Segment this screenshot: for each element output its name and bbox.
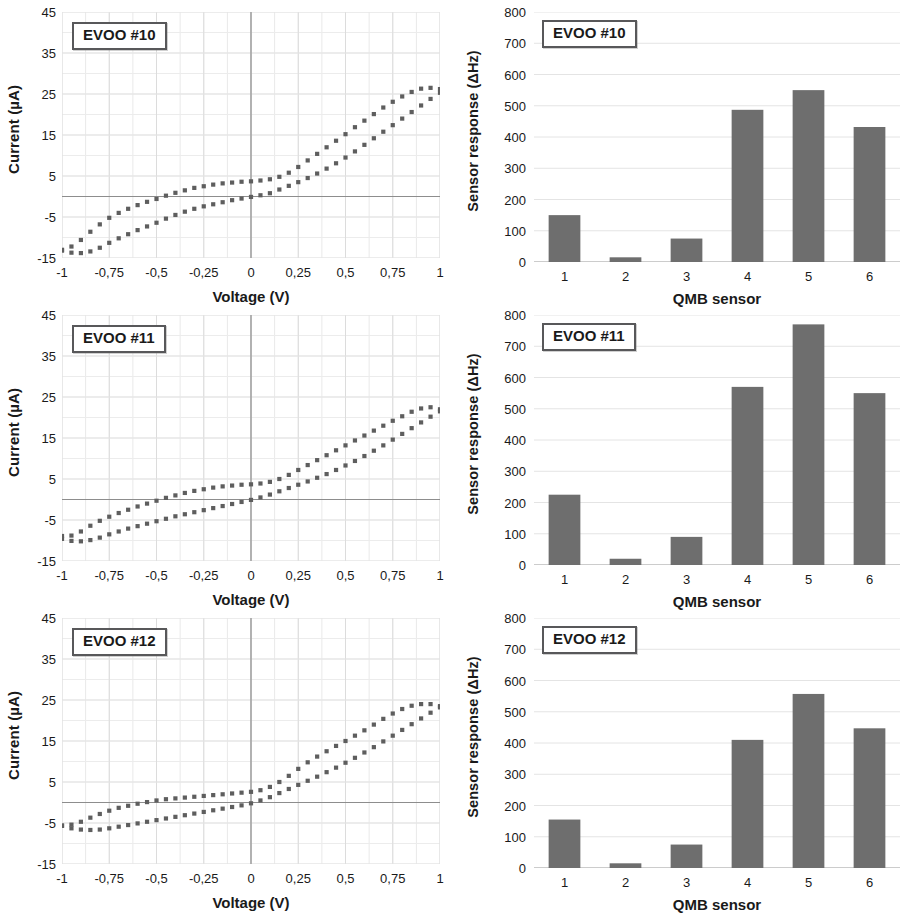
- bar-x-tick-label: 3: [683, 876, 690, 889]
- cv-y-tick-label: 5: [49, 170, 56, 183]
- cv-sample-label: EVOO #12: [72, 628, 167, 656]
- cv-x-tick-label: 0: [247, 569, 254, 582]
- cv-x-tick-label: 1: [436, 872, 443, 885]
- panel-row-2: Current (µA)-15-5515253545-1-0,75-0,5-0,…: [0, 303, 908, 606]
- bar-y-tick-label: 400: [504, 737, 526, 750]
- bar-plot-area: [534, 12, 900, 262]
- bar-x-tick-label: 6: [866, 573, 873, 586]
- bar-y-tick-label: 700: [504, 37, 526, 50]
- cv-x-tick-label: 0: [247, 872, 254, 885]
- bar-plot-area: [534, 315, 900, 565]
- cv-sample-label: EVOO #11: [72, 325, 166, 353]
- cv-y-tick-label: 15: [42, 432, 56, 445]
- bar-plot-area: [534, 618, 900, 868]
- cv-x-tick-label: 1: [436, 266, 443, 279]
- bar-y-axis-title-text: Sensor response (ΔHz): [465, 50, 481, 212]
- bar-2: [610, 257, 642, 262]
- bar-y-tick-label: 800: [504, 6, 526, 19]
- bar-5: [793, 324, 825, 565]
- bar-x-tick-label: 1: [561, 573, 568, 586]
- cv-panel-2: Current (µA)-15-5515253545-1-0,75-0,5-0,…: [0, 303, 460, 606]
- cv-x-tick-label: 0,75: [380, 872, 405, 885]
- bar-y-ticks: 0100200300400500600700800: [492, 303, 526, 565]
- cv-y-tick-label: 45: [42, 6, 56, 19]
- bar-x-tick-label: 2: [622, 573, 629, 586]
- bar-x-ticks: 123456: [534, 876, 900, 894]
- bar-x-tick-label: 4: [744, 270, 751, 283]
- cv-y-tick-label: 25: [42, 391, 56, 404]
- bar-y-tick-label: 700: [504, 643, 526, 656]
- cv-y-ticks: -15-5515253545: [22, 303, 56, 561]
- bar-4: [732, 110, 764, 262]
- cv-x-tick-label: -0,5: [145, 266, 167, 279]
- cv-x-ticks: -1-0,75-0,5-0,2500,250,50,751: [62, 872, 440, 890]
- bar-x-tick-label: 5: [805, 573, 812, 586]
- cv-y-tick-label: 45: [42, 309, 56, 322]
- bar-sample-label: EVOO #11: [542, 323, 636, 351]
- bar-y-tick-label: 300: [504, 465, 526, 478]
- bar-x-tick-label: 5: [805, 270, 812, 283]
- bar-6: [854, 393, 886, 565]
- cv-x-tick-label: 0,5: [336, 872, 354, 885]
- cv-y-tick-label: 35: [42, 350, 56, 363]
- cv-y-tick-label: -5: [44, 817, 56, 830]
- bar-y-tick-label: 800: [504, 612, 526, 625]
- bar-y-tick-label: 400: [504, 131, 526, 144]
- bar-panel-3: Sensor response (ΔHz)0100200300400500600…: [460, 606, 908, 923]
- bar-1: [549, 215, 581, 262]
- bar-x-axis-title: QMB sensor: [534, 896, 900, 913]
- bar-y-tick-label: 300: [504, 162, 526, 175]
- cv-x-tick-label: 0,25: [286, 872, 311, 885]
- bar-x-tick-label: 5: [805, 876, 812, 889]
- cv-x-tick-label: -0,25: [189, 266, 219, 279]
- bar-1: [549, 820, 581, 868]
- cv-y-ticks: -15-5515253545: [22, 0, 56, 258]
- cv-x-axis-title: Voltage (V): [62, 894, 440, 911]
- bar-3: [671, 239, 703, 262]
- figure-root: Current (µA)-15-5515253545-1-0,75-0,5-0,…: [0, 0, 908, 923]
- bar-y-tick-label: 100: [504, 224, 526, 237]
- cv-x-tick-label: 0,75: [380, 266, 405, 279]
- bar-x-tick-label: 6: [866, 270, 873, 283]
- bar-y-tick-label: 500: [504, 99, 526, 112]
- cv-x-ticks: -1-0,75-0,5-0,2500,250,50,751: [62, 266, 440, 284]
- cv-panel-1: Current (µA)-15-5515253545-1-0,75-0,5-0,…: [0, 0, 460, 303]
- bar-y-axis-title: Sensor response (ΔHz): [460, 303, 486, 565]
- bar-x-ticks: 123456: [534, 573, 900, 591]
- cv-x-tick-label: -1: [56, 266, 68, 279]
- bar-panel-2: Sensor response (ΔHz)0100200300400500600…: [460, 303, 908, 606]
- cv-y-tick-label: 25: [42, 694, 56, 707]
- cv-y-tick-label: 35: [42, 47, 56, 60]
- cv-y-tick-label: -15: [37, 858, 56, 871]
- cv-y-tick-label: 15: [42, 129, 56, 142]
- bar-y-tick-label: 300: [504, 768, 526, 781]
- cv-y-tick-label: 5: [49, 473, 56, 486]
- bar-2: [610, 559, 642, 565]
- bar-y-axis-title-text: Sensor response (ΔHz): [465, 353, 481, 515]
- bar-x-tick-label: 1: [561, 270, 568, 283]
- cv-y-tick-label: -5: [44, 514, 56, 527]
- bar-5: [793, 90, 825, 262]
- cv-x-tick-label: -0,5: [145, 569, 167, 582]
- bar-5: [793, 694, 825, 868]
- cv-x-tick-label: -1: [56, 872, 68, 885]
- panel-row-3: Current (µA)-15-5515253545-1-0,75-0,5-0,…: [0, 606, 908, 923]
- bar-y-tick-label: 500: [504, 705, 526, 718]
- bar-y-tick-label: 600: [504, 371, 526, 384]
- cv-y-tick-label: 25: [42, 88, 56, 101]
- bar-x-tick-label: 2: [622, 270, 629, 283]
- bar-panel-1: Sensor response (ΔHz)0100200300400500600…: [460, 0, 908, 303]
- bar-y-tick-label: 0: [519, 559, 526, 572]
- bar-x-tick-label: 1: [561, 876, 568, 889]
- cv-x-tick-label: 0,25: [286, 569, 311, 582]
- bar-x-tick-label: 2: [622, 876, 629, 889]
- bar-y-tick-label: 0: [519, 862, 526, 875]
- cv-sample-label: EVOO #10: [72, 22, 167, 50]
- bar-y-tick-label: 400: [504, 434, 526, 447]
- cv-x-tick-label: -0,25: [189, 872, 219, 885]
- cv-y-tick-label: -5: [44, 211, 56, 224]
- bar-y-tick-label: 100: [504, 830, 526, 843]
- cv-y-tick-label: 35: [42, 653, 56, 666]
- bar-y-axis-title: Sensor response (ΔHz): [460, 606, 486, 868]
- cv-x-tick-label: 0,5: [336, 266, 354, 279]
